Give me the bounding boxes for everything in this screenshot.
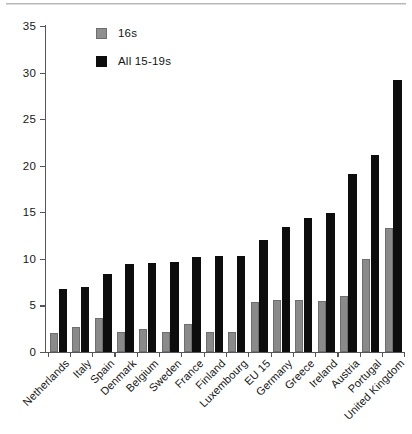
x-axis-tick <box>137 352 138 357</box>
x-axis-tick <box>114 352 115 357</box>
y-axis-tick <box>40 305 45 306</box>
bar-group <box>184 26 202 352</box>
y-axis-tick <box>40 259 45 260</box>
bar-group <box>139 26 157 352</box>
y-axis-tick-label: 35 <box>8 20 36 32</box>
bar-all-15-19s <box>237 256 246 352</box>
bar-16s <box>162 332 170 352</box>
bar-16s <box>117 332 125 352</box>
x-axis-tick <box>360 352 361 357</box>
bar-chart: 16sAll 15-19s 05101520253035 Netherlands… <box>0 0 412 434</box>
bar-group <box>95 26 113 352</box>
y-axis-tick-label: 0 <box>8 346 36 358</box>
x-axis-tick <box>271 352 272 357</box>
bar-group <box>117 26 135 352</box>
bar-group <box>162 26 180 352</box>
bar-16s <box>184 324 192 352</box>
bar-all-15-19s <box>393 80 402 352</box>
bar-16s <box>340 296 348 352</box>
x-axis-tick <box>382 352 383 357</box>
bar-16s <box>385 228 393 352</box>
x-axis-tick <box>226 352 227 357</box>
y-axis-tick-label: 5 <box>8 299 36 311</box>
bar-group <box>251 26 269 352</box>
bar-16s <box>95 318 103 352</box>
bar-group <box>206 26 224 352</box>
y-axis-tick-label: 25 <box>8 113 36 125</box>
x-axis-tick <box>181 352 182 357</box>
bar-group <box>318 26 336 352</box>
x-axis-tick <box>315 352 316 357</box>
y-axis-tick <box>40 166 45 167</box>
x-axis-tick <box>204 352 205 357</box>
bar-all-15-19s <box>348 174 357 352</box>
bar-16s <box>318 301 326 352</box>
bar-all-15-19s <box>170 262 179 352</box>
x-axis-tick <box>70 352 71 357</box>
bar-group <box>362 26 380 352</box>
y-axis-tick <box>40 26 45 27</box>
bar-group <box>385 26 403 352</box>
bar-16s <box>72 327 80 352</box>
bar-16s <box>50 333 58 352</box>
bar-all-15-19s <box>259 240 268 352</box>
x-axis-tick <box>248 352 249 357</box>
bar-16s <box>206 332 214 352</box>
y-axis-tick-label: 30 <box>8 67 36 79</box>
bar-all-15-19s <box>304 218 313 352</box>
x-axis-tick <box>159 352 160 357</box>
x-axis-tick <box>293 352 294 357</box>
x-axis-tick <box>48 352 49 357</box>
y-axis-tick-label: 20 <box>8 160 36 172</box>
y-axis-tick <box>40 73 45 74</box>
x-axis-tick <box>337 352 338 357</box>
y-axis-tick-label: 10 <box>8 253 36 265</box>
bar-all-15-19s <box>125 264 134 352</box>
bar-group <box>340 26 358 352</box>
bar-group <box>295 26 313 352</box>
bar-16s <box>251 302 259 352</box>
x-axis-tick <box>404 352 405 357</box>
page-edge-line-soft <box>6 4 406 5</box>
plot-area <box>47 26 405 352</box>
bar-all-15-19s <box>59 289 68 352</box>
bar-16s <box>362 259 370 352</box>
y-axis-tick <box>40 352 45 353</box>
bar-16s <box>139 329 147 352</box>
bar-all-15-19s <box>81 287 90 352</box>
bar-all-15-19s <box>192 257 201 352</box>
bar-16s <box>228 332 236 352</box>
bar-group <box>228 26 246 352</box>
bar-all-15-19s <box>282 227 291 352</box>
bar-group <box>273 26 291 352</box>
y-axis-tick <box>40 119 45 120</box>
bar-16s <box>295 300 303 352</box>
bar-all-15-19s <box>148 263 157 352</box>
bar-all-15-19s <box>326 213 335 352</box>
bar-all-15-19s <box>215 256 224 352</box>
bar-all-15-19s <box>371 155 380 352</box>
bar-group <box>50 26 68 352</box>
bar-all-15-19s <box>103 274 112 352</box>
x-axis-category-label: Netherlands <box>20 357 71 408</box>
y-axis-tick-label: 15 <box>8 206 36 218</box>
bar-16s <box>273 300 281 352</box>
y-axis-tick <box>40 212 45 213</box>
x-axis-tick <box>92 352 93 357</box>
bar-group <box>72 26 90 352</box>
